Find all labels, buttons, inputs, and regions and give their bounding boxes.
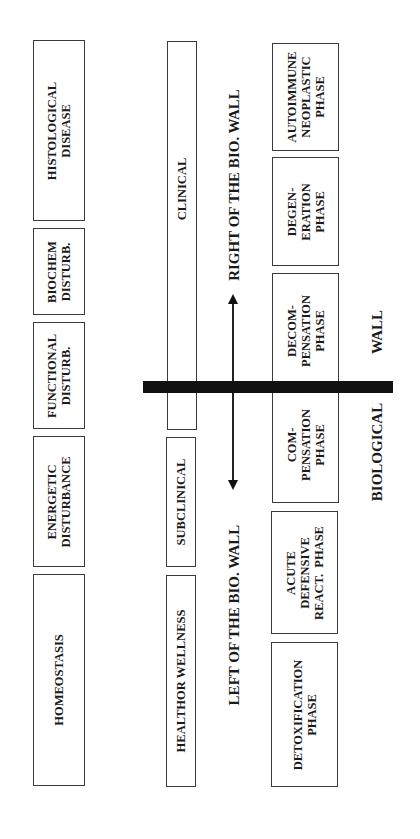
label-health-wellness: HEALTHOR WELLNESS — [174, 610, 188, 753]
label-decompensation: DECOM- PENSATION PHASE — [285, 294, 327, 366]
box-health-wellness: HEALTHOR WELLNESS — [166, 575, 196, 787]
label-detoxification: DETOXIFICATION PHASE — [291, 659, 319, 770]
label-functional-disturbance: FUNCTIONAL DISTURB. — [45, 333, 73, 417]
box-decompensation: DECOM- PENSATION PHASE — [272, 273, 339, 388]
label-left-of-wall: LEFT OF THE BIO. WALL — [226, 525, 243, 706]
label-biological: BIOLOGICAL — [369, 403, 386, 501]
label-energetic-disturbance: ENERGETIC DISTURBANCE — [45, 456, 73, 547]
label-autoimmune-neoplastic: AUTOIMMUNE NEOPLASTIC PHASE — [285, 52, 327, 143]
box-homeostasis: HOMEOSTASIS — [33, 574, 85, 786]
box-clinical: CLINICAL — [167, 41, 197, 430]
box-detoxification: DETOXIFICATION PHASE — [271, 642, 338, 787]
arrow-line — [232, 302, 234, 484]
label-clinical: CLINICAL — [175, 158, 189, 221]
box-biochem-disturbance: BIOCHEM DISTURB. — [33, 228, 85, 315]
label-compensation: COM- PENSATION PHASE — [285, 408, 327, 480]
biological-wall-bar — [143, 381, 393, 393]
label-histological-disease: HISTOLOGICAL DISEASE — [45, 81, 73, 179]
label-wall: WALL — [369, 310, 386, 354]
label-homeostasis: HOMEOSTASIS — [52, 634, 66, 725]
arrow-up-icon — [228, 294, 238, 304]
box-autoimmune-neoplastic: AUTOIMMUNE NEOPLASTIC PHASE — [272, 43, 339, 151]
box-functional-disturbance: FUNCTIONAL DISTURB. — [33, 322, 85, 429]
box-histological-disease: HISTOLOGICAL DISEASE — [33, 40, 85, 221]
box-energetic-disturbance: ENERGETIC DISTURBANCE — [33, 436, 85, 567]
label-biochem-disturbance: BIOCHEM DISTURB. — [45, 241, 73, 303]
label-acute-defensive: ACUTE DEFENSIVE REACT. PHASE — [284, 526, 326, 620]
box-compensation: COM- PENSATION PHASE — [272, 386, 339, 503]
arrow-down-icon — [228, 480, 238, 490]
box-subclinical: SUBCLINICAL — [166, 437, 196, 567]
label-degeneration: DEGEN- ERATION PHASE — [285, 183, 327, 240]
label-right-of-wall: RIGHT OF THE BIO. WALL — [226, 89, 243, 281]
label-subclinical: SUBCLINICAL — [174, 459, 188, 546]
box-acute-defensive: ACUTE DEFENSIVE REACT. PHASE — [271, 511, 338, 634]
box-degeneration: DEGEN- ERATION PHASE — [272, 157, 339, 266]
